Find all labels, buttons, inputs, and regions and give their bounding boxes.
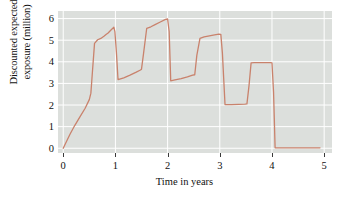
x-tick-label: 3 bbox=[210, 160, 230, 171]
x-tick-label: 4 bbox=[262, 160, 282, 171]
x-axis-title: Time in years bbox=[0, 176, 341, 187]
x-tick-label: 5 bbox=[314, 160, 334, 171]
x-tick-label: 1 bbox=[105, 160, 125, 171]
x-tick-mark bbox=[324, 153, 325, 157]
x-tick-mark bbox=[168, 153, 169, 157]
x-tick-label: 0 bbox=[53, 160, 73, 171]
chart-figure: Discounted expected exposure (million) 0… bbox=[0, 0, 341, 198]
x-tick-mark bbox=[272, 153, 273, 157]
x-tick-mark bbox=[63, 153, 64, 157]
x-axis-title-text: Time in years bbox=[156, 176, 213, 187]
x-tick-label: 2 bbox=[158, 160, 178, 171]
x-axis-tick-labels: 012345 bbox=[0, 0, 341, 198]
x-tick-mark bbox=[220, 153, 221, 157]
x-tick-mark bbox=[115, 153, 116, 157]
